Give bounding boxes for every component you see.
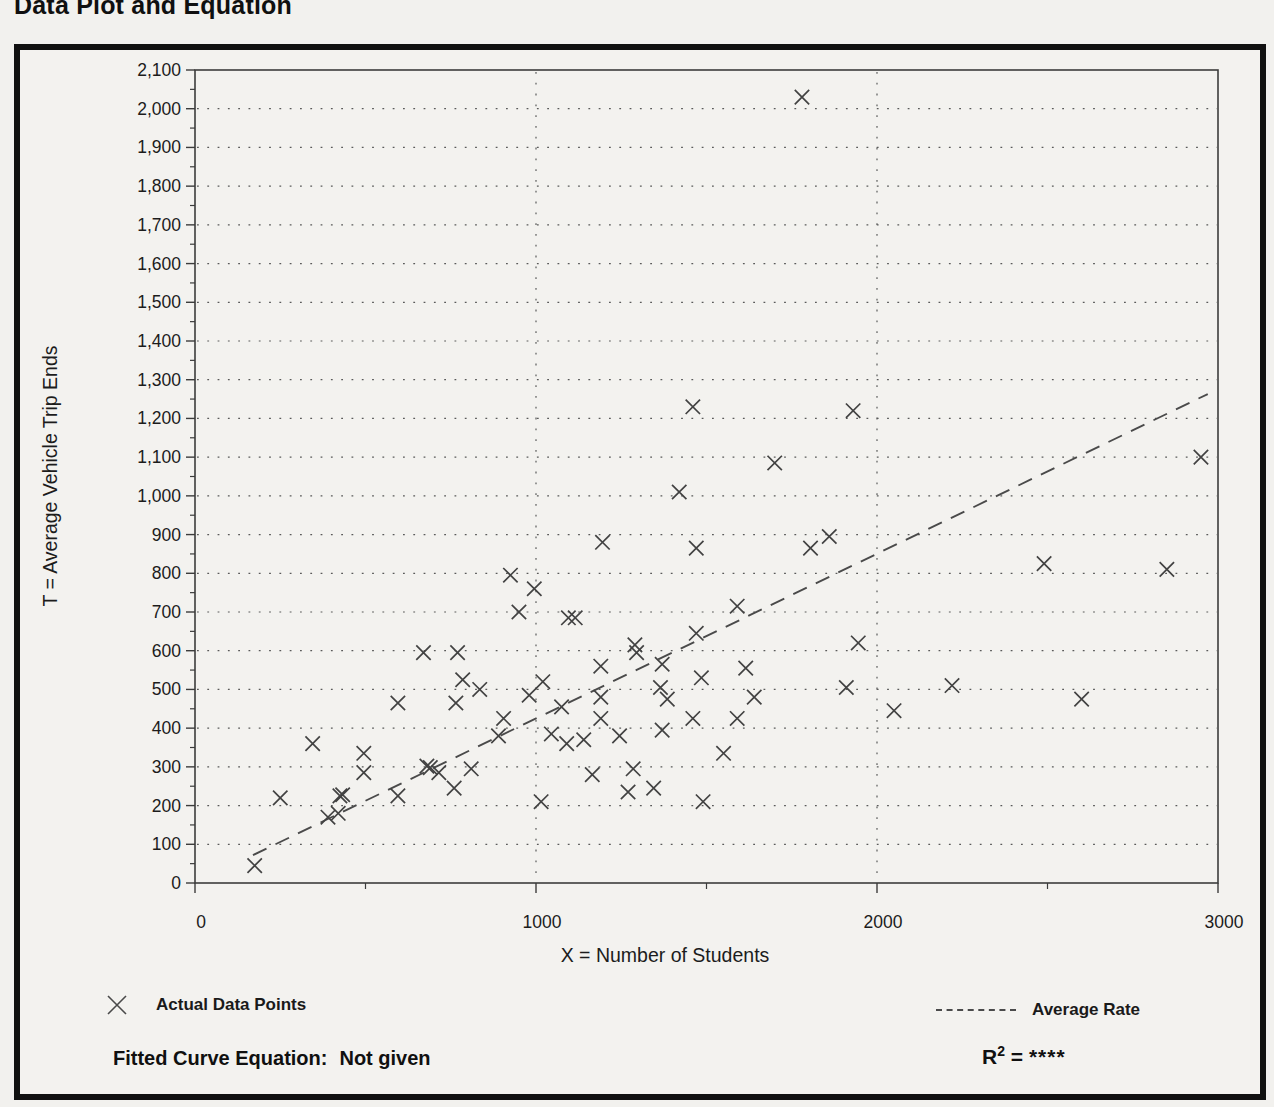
legend-actual-data-points: Actual Data Points — [104, 992, 306, 1018]
data-point-marker — [247, 858, 261, 872]
data-point-marker — [747, 690, 761, 704]
data-point-marker — [839, 680, 853, 694]
data-point-marker — [612, 729, 626, 743]
y-tick-label: 1,100 — [137, 447, 181, 467]
data-point-marker — [305, 736, 319, 750]
data-point-marker — [686, 711, 700, 725]
data-point-marker — [496, 711, 510, 725]
x-axis-title: X = Number of Students — [561, 944, 770, 966]
y-tick-label: 300 — [152, 757, 181, 777]
data-point-marker — [686, 400, 700, 414]
data-point-marker — [357, 746, 371, 760]
y-tick-label: 1,900 — [137, 137, 181, 157]
data-point-marker — [730, 599, 744, 613]
data-point-marker — [822, 529, 836, 543]
dashed-line-icon — [936, 1009, 1016, 1011]
y-tick-label: 1,700 — [137, 215, 181, 235]
plot-border — [195, 70, 1218, 883]
data-point-marker — [577, 733, 591, 747]
y-tick-label: 900 — [152, 525, 181, 545]
y-tick-label: 2,100 — [137, 60, 181, 80]
y-tick-label: 1,000 — [137, 486, 181, 506]
data-point-marker — [655, 723, 669, 737]
data-point-marker — [559, 736, 573, 750]
y-tick-label: 1,200 — [137, 408, 181, 428]
equation-label: Fitted Curve Equation: — [113, 1047, 327, 1069]
data-point-marker — [594, 659, 608, 673]
data-point-marker — [1074, 692, 1088, 706]
data-point-marker — [503, 568, 517, 582]
y-tick-label: 1,300 — [137, 370, 181, 390]
data-point-marker — [730, 711, 744, 725]
scatter-plot: 01002003004005006007008009001,0001,1001,… — [0, 0, 1274, 1107]
data-point-marker — [554, 700, 568, 714]
r-squared: R2 = **** — [982, 1043, 1066, 1069]
x-tick-label: 0 — [196, 912, 206, 932]
data-point-marker — [568, 611, 582, 625]
data-point-marker — [273, 791, 287, 805]
data-point-marker — [803, 541, 817, 555]
x-tick-label: 3000 — [1205, 912, 1244, 932]
data-point-marker — [536, 674, 550, 688]
data-point-marker — [672, 485, 686, 499]
data-point-marker — [851, 636, 865, 650]
fitted-curve-equation: Fitted Curve Equation:Not given — [113, 1047, 431, 1070]
data-point-marker — [561, 611, 575, 625]
y-tick-label: 700 — [152, 602, 181, 622]
data-point-marker — [945, 678, 959, 692]
data-point-marker — [527, 582, 541, 596]
data-point-marker — [887, 704, 901, 718]
data-point-marker — [512, 605, 526, 619]
data-point-marker — [795, 90, 809, 104]
r-squared-exponent: 2 — [997, 1043, 1005, 1059]
y-tick-label: 500 — [152, 679, 181, 699]
data-point-marker — [594, 711, 608, 725]
data-point-marker — [716, 746, 730, 760]
data-point-marker — [522, 688, 536, 702]
data-point-marker — [694, 671, 708, 685]
data-point-marker — [689, 626, 703, 640]
y-tick-label: 400 — [152, 718, 181, 738]
y-tick-label: 1,500 — [137, 292, 181, 312]
average-rate-line — [253, 394, 1208, 855]
data-point-marker — [689, 541, 703, 555]
x-tick-label: 1000 — [523, 912, 562, 932]
r-squared-base: R — [982, 1045, 997, 1068]
y-tick-label: 1,400 — [137, 331, 181, 351]
y-tick-label: 1,600 — [137, 254, 181, 274]
data-point-marker — [534, 795, 548, 809]
data-point-marker — [473, 682, 487, 696]
data-point-marker — [585, 767, 599, 781]
y-tick-label: 200 — [152, 796, 181, 816]
y-axis-title: T = Average Vehicle Trip Ends — [39, 345, 61, 606]
data-point-marker — [455, 673, 469, 687]
r-squared-equals: = — [1005, 1045, 1029, 1068]
equation-value: Not given — [339, 1047, 430, 1069]
data-point-marker — [447, 781, 461, 795]
r-squared-value: **** — [1029, 1045, 1066, 1068]
data-point-marker — [449, 696, 463, 710]
data-point-marker — [1037, 556, 1051, 570]
data-point-marker — [391, 789, 405, 803]
legend-label-actual-data-points: Actual Data Points — [156, 995, 306, 1015]
y-tick-label: 1,800 — [137, 176, 181, 196]
data-point-marker — [621, 785, 635, 799]
y-tick-label: 600 — [152, 641, 181, 661]
data-point-marker — [846, 403, 860, 417]
data-point-marker — [626, 762, 640, 776]
data-point-marker — [768, 456, 782, 470]
x-tick-label: 2000 — [864, 912, 903, 932]
data-point-marker — [357, 765, 371, 779]
data-point-marker — [416, 645, 430, 659]
data-point-marker — [696, 795, 710, 809]
data-point-marker — [655, 657, 669, 671]
data-point-marker — [646, 781, 660, 795]
data-point-marker — [739, 661, 753, 675]
legend-label-average-rate: Average Rate — [1032, 1000, 1140, 1020]
data-point-marker — [450, 645, 464, 659]
scanned-chart-page: Data Plot and Equation 01002003004005006… — [0, 0, 1274, 1107]
data-point-marker — [464, 762, 478, 776]
data-point-marker — [491, 729, 505, 743]
x-marker-icon — [104, 992, 130, 1018]
legend-average-rate: Average Rate — [936, 1000, 1140, 1020]
